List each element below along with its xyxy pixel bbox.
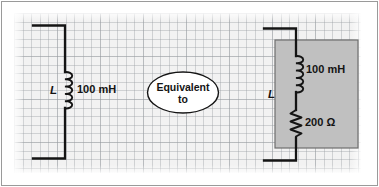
left-top-lead: [33, 26, 65, 73]
right-inductor-symbol-label: L: [268, 88, 275, 100]
equivalent-to-line-2: to: [146, 94, 220, 106]
left-bottom-lead: [33, 108, 65, 159]
left-inductor-value-label: 100 mH: [77, 84, 116, 96]
circuit-figure: L 100 mH Equivalent to L 100 mH 200 Ω: [0, 0, 379, 187]
left-inductor-coil-icon: [65, 72, 72, 109]
equivalent-to-line-1: Equivalent: [146, 82, 220, 94]
series-model-shaded-box: [275, 40, 358, 148]
equivalent-to-label: Equivalent to: [146, 82, 220, 106]
right-inductor-value-label: 100 mH: [306, 64, 345, 76]
left-inductor-symbol-label: L: [50, 84, 57, 96]
resistor-value-label: 200 Ω: [305, 117, 335, 129]
